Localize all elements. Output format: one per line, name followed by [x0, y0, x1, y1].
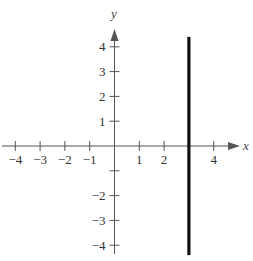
- y-tick-label: −2: [92, 188, 106, 203]
- y-tick-label: −4: [92, 238, 106, 253]
- y-tick-label: 3: [99, 64, 106, 79]
- y-axis-arrow-icon: [111, 29, 119, 41]
- y-tick-label: 4: [99, 39, 106, 54]
- x-axis-arrow-icon: [228, 142, 240, 150]
- x-tick-label: 2: [161, 152, 168, 167]
- y-tick-label: 1: [99, 114, 106, 129]
- x-tick-label: −3: [33, 152, 47, 167]
- x-tick-label: 1: [136, 152, 143, 167]
- y-tick-label: 2: [99, 89, 106, 104]
- x-tick-label: −2: [58, 152, 72, 167]
- chart-plot: −4−3−2−11244321−2−3−4 x y: [0, 0, 253, 261]
- y-tick-label: −3: [92, 213, 106, 228]
- x-tick-label: −4: [8, 152, 22, 167]
- x-tick-label: −1: [83, 152, 97, 167]
- x-axis-label: x: [242, 138, 249, 153]
- x-tick-label: 4: [210, 152, 217, 167]
- axes: [2, 29, 240, 254]
- y-axis-label: y: [109, 6, 117, 21]
